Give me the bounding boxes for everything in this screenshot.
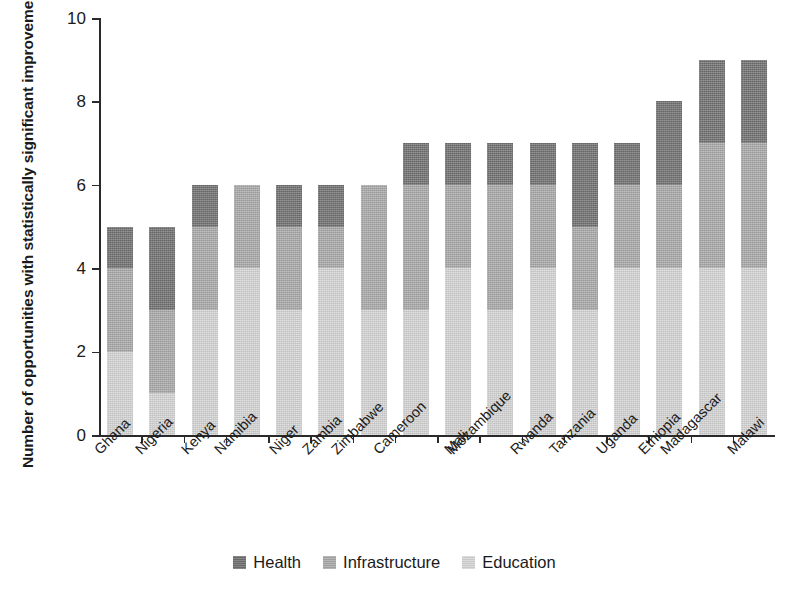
bar-segment-infrastructure	[487, 185, 513, 310]
bar-niger	[276, 185, 302, 435]
y-axis-tick: 8	[92, 101, 99, 103]
bar-madagascar	[699, 60, 725, 435]
y-axis-tick: 0	[92, 435, 99, 437]
bar-segment-education	[318, 268, 344, 435]
bar-segment-infrastructure	[361, 185, 387, 310]
bar-tanzania	[572, 143, 598, 435]
bar-zambia	[318, 185, 344, 435]
bar-segment-health	[403, 143, 429, 185]
legend-label-education: Education	[482, 553, 555, 572]
bar-segment-health	[530, 143, 556, 185]
bar-segment-health	[572, 143, 598, 226]
bar-segment-infrastructure	[530, 185, 556, 268]
bar-uganda	[614, 143, 640, 435]
bar-segment-infrastructure	[192, 227, 218, 310]
bar-segment-education	[741, 268, 767, 435]
bar-segment-health	[614, 143, 640, 185]
bar-segment-infrastructure	[572, 227, 598, 310]
bar-segment-health	[741, 60, 767, 143]
bar-segment-education	[276, 310, 302, 435]
y-axis-title: Number of opportunities with statistical…	[18, 0, 38, 468]
y-axis-tick: 6	[92, 185, 99, 187]
legend-swatch-education	[462, 556, 475, 569]
bar-ethiopia	[656, 101, 682, 435]
bar-segment-infrastructure	[276, 227, 302, 310]
bar-segment-infrastructure	[741, 143, 767, 268]
legend-item-infrastructure: Infrastructure	[323, 553, 440, 572]
bar-segment-infrastructure	[403, 185, 429, 310]
y-axis-tick: 4	[92, 268, 99, 270]
bar-segment-health	[318, 185, 344, 227]
y-axis-tick-label: 4	[77, 259, 86, 279]
bar-segment-health	[192, 185, 218, 227]
bar-segment-infrastructure	[234, 185, 260, 268]
bar-segment-health	[107, 227, 133, 269]
y-axis-tick-label: 6	[77, 176, 86, 196]
bar-segment-infrastructure	[445, 185, 471, 268]
legend-label-infrastructure: Infrastructure	[343, 553, 440, 572]
legend-swatch-health	[233, 556, 246, 569]
legend-item-health: Health	[233, 553, 301, 572]
y-axis-tick: 10	[92, 18, 99, 20]
bar-segment-health	[656, 101, 682, 184]
y-axis-tick-label: 2	[77, 342, 86, 362]
bar-namibia	[234, 185, 260, 435]
legend-swatch-infrastructure	[323, 556, 336, 569]
bar-segment-health	[699, 60, 725, 143]
bar-ghana	[107, 227, 133, 436]
bar-series-group	[99, 18, 775, 435]
legend-label-health: Health	[253, 553, 301, 572]
bar-kenya	[192, 185, 218, 435]
y-axis-tick-label: 10	[67, 9, 86, 29]
y-axis-title-container: Number of opportunities with statistical…	[0, 0, 56, 445]
bar-segment-infrastructure	[149, 310, 175, 393]
x-axis-labels: GhanaNigeriaKenyaNamibiaNigerZambiaZimba…	[99, 440, 775, 545]
chart-legend: HealthInfrastructureEducation	[0, 553, 789, 572]
bar-segment-infrastructure	[318, 227, 344, 269]
y-axis-tick-label: 0	[77, 426, 86, 446]
bar-segment-health	[487, 143, 513, 185]
bar-mali	[445, 143, 471, 435]
bar-rwanda	[530, 143, 556, 435]
bar-segment-education	[192, 310, 218, 435]
y-axis-tick: 2	[92, 352, 99, 354]
legend-item-education: Education	[462, 553, 555, 572]
bar-segment-health	[276, 185, 302, 227]
bar-segment-infrastructure	[614, 185, 640, 268]
bar-cameroon	[403, 143, 429, 435]
bar-segment-health	[149, 227, 175, 310]
bar-nigeria	[149, 227, 175, 436]
bar-segment-health	[445, 143, 471, 185]
bar-segment-infrastructure	[107, 268, 133, 351]
stacked-bar-chart: Number of opportunities with statistical…	[0, 0, 789, 590]
y-axis-tick-label: 8	[77, 92, 86, 112]
bar-segment-infrastructure	[656, 185, 682, 268]
bar-segment-infrastructure	[699, 143, 725, 268]
bar-zimbabwe	[361, 185, 387, 435]
bar-malawi	[741, 60, 767, 435]
bar-segment-education	[445, 268, 471, 435]
plot-area: 0246810	[99, 18, 775, 435]
